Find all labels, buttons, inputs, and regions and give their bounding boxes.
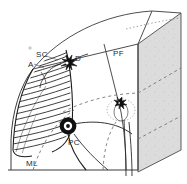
label-axon: A (28, 61, 34, 69)
figure-linework (0, 0, 187, 184)
cerebellar-cortex-figure: SC A D PF PC ML (0, 0, 187, 184)
label-molecular-layer: ML (26, 160, 38, 168)
label-dendrite: D (75, 55, 81, 63)
label-stellate-cell: SC (36, 51, 48, 59)
label-parallel-fiber: PF (113, 50, 124, 58)
basket-cell (107, 97, 135, 121)
cut-face-wall (138, 13, 181, 172)
label-purkinje-cell: PC (68, 139, 80, 147)
